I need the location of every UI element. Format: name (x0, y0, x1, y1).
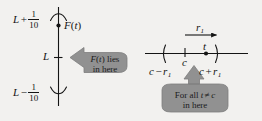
function-value-label: F(t) (64, 20, 81, 31)
lower-bound-denominator: 10 (28, 94, 39, 103)
left-endpoint-operator: − (154, 65, 163, 77)
lower-bound-label: L−110 (13, 83, 39, 103)
right-panel-number-line: r1 t c c−r1 c+r1 For all t≠c in here (131, 0, 262, 121)
left-callout-line2: in here (86, 64, 124, 74)
center-c-label: c (182, 57, 187, 68)
right-endpoint-operator: + (204, 65, 213, 77)
right-endpoint-subscript: 1 (217, 71, 221, 79)
function-value-dot (56, 23, 60, 27)
lower-bound-numerator: 1 (28, 83, 39, 92)
point-t-label: t (203, 41, 206, 52)
bottom-callout-prefix: For all (175, 90, 201, 100)
radius-subscript: 1 (200, 27, 204, 35)
left-callout-text: F(t) lies in here (86, 54, 124, 74)
lower-bound-operator: − (19, 86, 28, 98)
radius-label: r1 (196, 22, 204, 35)
upper-bound-label: L+110 (13, 10, 39, 30)
center-c-text: c (182, 56, 187, 68)
bottom-callout-center: c (211, 90, 215, 100)
function-name: F (64, 19, 71, 31)
left-endpoint-subscript: 1 (167, 71, 171, 79)
upper-bound-operator: + (19, 13, 28, 25)
upper-bound-denominator: 10 (28, 21, 39, 30)
left-callout-line1: F(t) lies (86, 54, 124, 64)
bottom-callout-text: For all t≠c in here (164, 90, 226, 110)
left-callout-suffix: lies (105, 54, 120, 64)
bottom-callout-line1: For all t≠c (164, 90, 226, 100)
left-panel-vertical-axis: L+110 L L−110 F(t) F(t) lies in here (0, 0, 131, 121)
upper-bound-fraction: 110 (28, 10, 39, 30)
right-endpoint-label: c+r1 (199, 66, 221, 79)
left-endpoint-label: c−r1 (149, 66, 171, 79)
lower-bound-fraction: 110 (28, 83, 39, 103)
point-t-text: t (203, 40, 206, 52)
point-t-dot (204, 51, 208, 55)
bottom-callout-line2: in here (164, 100, 226, 110)
center-value-text: L (43, 50, 49, 62)
limit-definition-figure: L+110 L L−110 F(t) F(t) lies in here (0, 0, 262, 121)
close-paren: ) (77, 19, 81, 31)
center-value-label: L (43, 51, 49, 62)
upper-bound-numerator: 1 (28, 10, 39, 19)
